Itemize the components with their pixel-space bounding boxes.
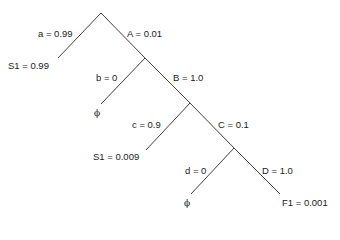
leaf-label-phi-b: ϕ — [94, 109, 100, 118]
edge-label-C: C = 0.1 — [218, 120, 249, 130]
leaf-label-phi-d: ϕ — [184, 199, 190, 208]
edge-label-B: B = 1.0 — [173, 73, 203, 83]
edge-label-c: c = 0.9 — [132, 120, 161, 130]
edge-label-d: d = 0 — [185, 166, 206, 176]
leaf-label-f1: F1 = 0.001 — [282, 198, 328, 208]
leaf-label-s1-c: S1 = 0.009 — [93, 152, 139, 162]
edge-label-A: A = 0.01 — [127, 29, 162, 39]
edge-label-b: b = 0 — [96, 73, 117, 83]
leaf-label-s1-a: S1 = 0.99 — [8, 61, 49, 71]
edge-label-a: a = 0.99 — [38, 29, 73, 39]
edge-label-D: D = 1.0 — [262, 166, 293, 176]
